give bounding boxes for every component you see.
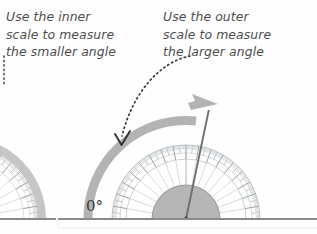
right-dotted-pointer [115, 56, 190, 145]
callout-inner-scale: Use the inner scale to measure the small… [6, 8, 116, 61]
zero-degree-label: 0° [86, 197, 103, 215]
callout-outer-scale: Use the outer scale to measure the large… [163, 8, 271, 61]
left-protractor [0, 137, 46, 219]
figure-canvas: Use the inner scale to measure the small… [0, 0, 317, 234]
sweep-arrow-head [188, 94, 218, 110]
left-protractor-body [0, 137, 46, 219]
right-protractor [104, 90, 268, 220]
